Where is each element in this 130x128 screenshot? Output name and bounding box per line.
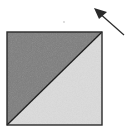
arrow-head [94, 8, 107, 19]
diagram [0, 0, 130, 128]
speck-mark [63, 21, 65, 23]
arrow-icon [94, 8, 124, 35]
